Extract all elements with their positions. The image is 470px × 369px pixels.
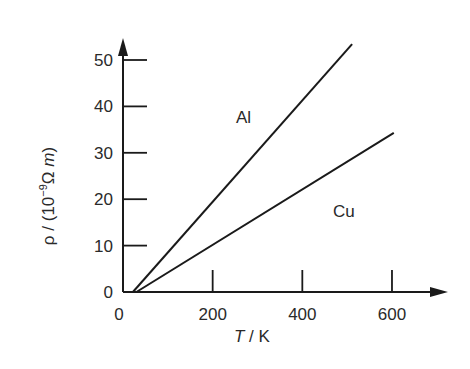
x-axis-title: T / K — [234, 327, 271, 346]
series-lines — [133, 44, 394, 292]
x-axis-arrow-icon — [430, 287, 448, 297]
x-tick-label: 600 — [378, 305, 406, 324]
series-line-cu — [136, 133, 393, 292]
x-tick-label: 0 — [114, 305, 123, 324]
y-tick-label: 0 — [104, 283, 113, 302]
series-label-al: Al — [236, 108, 251, 127]
x-tick-label: 400 — [288, 305, 316, 324]
y-axis-title: ρ / (10−9Ω m) — [37, 147, 58, 245]
y-tick-label: 20 — [94, 190, 113, 209]
y-tick-label: 40 — [94, 97, 113, 116]
resistivity-chart: 010203040500200400600 Al Cu T / K ρ / (1… — [0, 0, 470, 369]
y-axis-arrow-icon — [118, 38, 128, 56]
y-tick-label: 30 — [94, 144, 113, 163]
x-tick-label: 200 — [198, 305, 226, 324]
axes: 010203040500200400600 — [94, 38, 448, 324]
y-tick-label: 10 — [94, 237, 113, 256]
series-line-al — [133, 44, 352, 292]
series-label-cu: Cu — [333, 202, 355, 221]
y-tick-label: 50 — [94, 51, 113, 70]
